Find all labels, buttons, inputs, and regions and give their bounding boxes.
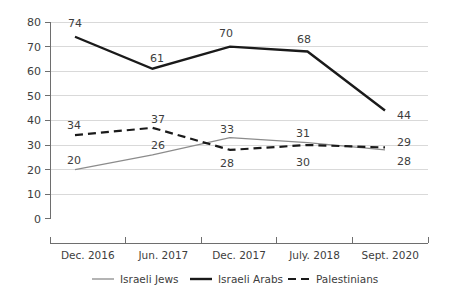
- legend-item-israeli-arabs[interactable]: Israeli Arabs: [190, 273, 283, 285]
- line-chart: 80 70 60 50 40 30 20 10 0 Dec. 2016 Jun.…: [0, 0, 452, 296]
- data-label-arabs-4: 44: [397, 109, 411, 122]
- x-category-label-2: Dec. 2017: [212, 249, 266, 261]
- data-label-arabs-2: 70: [219, 27, 233, 40]
- series-line-israeli-arabs: [75, 37, 385, 111]
- data-label-jews-1: 26: [151, 139, 165, 152]
- data-label-jews-2: 33: [220, 123, 234, 136]
- x-axis: Dec. 2016 Jun. 2017 Dec. 2017 July. 2018…: [50, 237, 428, 261]
- y-tick-label-70: 70: [27, 41, 41, 54]
- x-category-label-4: Sept. 2020: [362, 249, 419, 261]
- data-label-arabs-1: 61: [150, 52, 164, 65]
- legend-label-israeli-jews: Israeli Jews: [120, 273, 179, 285]
- chart-canvas: 80 70 60 50 40 30 20 10 0 Dec. 2016 Jun.…: [0, 0, 452, 296]
- data-label-pal-2: 28: [220, 157, 234, 170]
- x-category-label-0: Dec. 2016: [61, 249, 115, 261]
- chart-legend: Israeli Jews Israeli Arabs Palestinians: [92, 273, 378, 285]
- data-label-arabs-3: 68: [297, 33, 311, 46]
- y-axis: 80 70 60 50 40 30 20 10 0: [27, 16, 50, 226]
- y-tick-label-40: 40: [27, 114, 41, 127]
- data-label-jews-4: 28: [397, 155, 411, 168]
- x-category-label-3: July. 2018: [288, 249, 340, 261]
- data-label-pal-1: 37: [151, 113, 165, 126]
- legend-item-palestinians[interactable]: Palestinians: [288, 273, 378, 285]
- y-tick-label-20: 20: [27, 164, 41, 177]
- data-labels-israeli-arabs: 74 61 70 68 44: [68, 17, 411, 122]
- legend-label-palestinians: Palestinians: [316, 273, 378, 285]
- data-label-pal-4: 29: [397, 136, 411, 149]
- data-label-pal-3: 30: [296, 156, 310, 169]
- y-tick-label-10: 10: [27, 188, 41, 201]
- data-label-jews-0: 20: [67, 154, 81, 167]
- legend-label-israeli-arabs: Israeli Arabs: [218, 273, 283, 285]
- series-israeli-arabs: [75, 37, 385, 111]
- x-category-label-1: Jun. 2017: [137, 249, 188, 261]
- y-tick-label-50: 50: [27, 90, 41, 103]
- data-label-pal-0: 34: [67, 119, 81, 132]
- data-label-arabs-0: 74: [68, 17, 82, 30]
- y-tick-label-0: 0: [34, 213, 41, 226]
- y-tick-label-80: 80: [27, 16, 41, 29]
- y-tick-label-30: 30: [27, 139, 41, 152]
- data-label-jews-3: 31: [296, 127, 310, 140]
- legend-item-israeli-jews[interactable]: Israeli Jews: [92, 273, 179, 285]
- y-tick-label-60: 60: [27, 65, 41, 78]
